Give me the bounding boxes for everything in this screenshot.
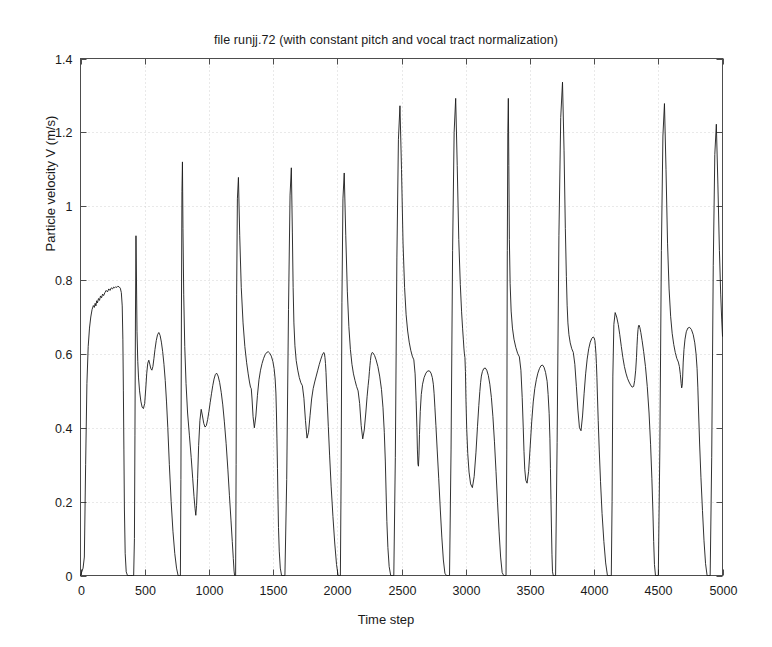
svg-text:3500: 3500	[517, 584, 545, 598]
svg-text:0: 0	[66, 570, 73, 584]
svg-text:1500: 1500	[260, 584, 288, 598]
svg-text:1.2: 1.2	[55, 126, 72, 140]
figure-container: file runjj.72 (with constant pitch and v…	[0, 0, 772, 647]
svg-text:0.6: 0.6	[55, 348, 72, 362]
y-axis-label: Particle velocity V (m/s)	[43, 64, 58, 304]
svg-text:0.2: 0.2	[55, 496, 72, 510]
axis-ticks	[81, 59, 724, 577]
svg-text:0: 0	[78, 584, 85, 598]
svg-text:2500: 2500	[389, 584, 417, 598]
svg-text:1000: 1000	[196, 584, 224, 598]
gridlines	[81, 59, 723, 576]
svg-text:0.8: 0.8	[55, 274, 72, 288]
x-axis-label: Time step	[0, 612, 772, 627]
plot-frame	[81, 59, 723, 576]
svg-text:4000: 4000	[581, 584, 609, 598]
svg-text:1: 1	[66, 200, 73, 214]
svg-text:3000: 3000	[453, 584, 481, 598]
svg-text:4500: 4500	[645, 584, 673, 598]
line-chart: 0500100015002000250030003500400045005000…	[0, 0, 772, 647]
svg-text:500: 500	[135, 584, 156, 598]
data-series-line	[81, 82, 723, 575]
svg-text:0.4: 0.4	[55, 422, 72, 436]
svg-text:2000: 2000	[324, 584, 352, 598]
svg-text:5000: 5000	[710, 584, 738, 598]
svg-text:1.4: 1.4	[55, 53, 72, 67]
